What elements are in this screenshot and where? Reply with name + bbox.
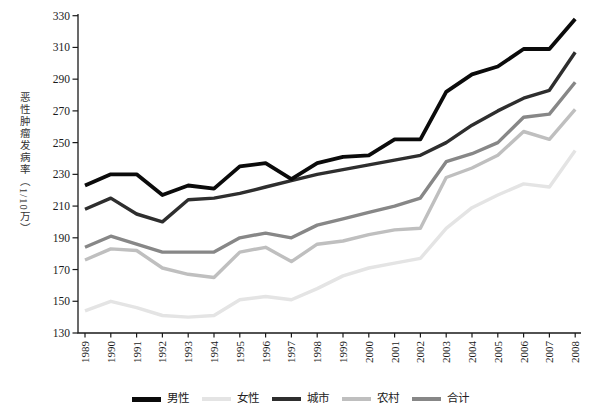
legend-swatch-total bbox=[412, 397, 441, 401]
legend-swatch-rural bbox=[342, 397, 371, 401]
x-tick-label: 1993 bbox=[182, 341, 194, 364]
legend-item-rural: 农村 bbox=[342, 393, 399, 405]
y-tick-label: 150 bbox=[53, 295, 71, 307]
x-tick-label: 1989 bbox=[79, 341, 91, 364]
y-tick-label: 130 bbox=[53, 327, 71, 339]
y-tick-label: 170 bbox=[53, 264, 71, 276]
y-tick-label: 270 bbox=[53, 105, 71, 117]
x-tick-label: 1994 bbox=[208, 341, 220, 364]
series-line-male bbox=[85, 19, 575, 195]
legend-label-urban: 城市 bbox=[307, 393, 329, 405]
legend-label-rural: 农村 bbox=[377, 393, 399, 405]
legend-swatch-urban bbox=[272, 397, 301, 401]
legend-label-male: 男性 bbox=[167, 393, 189, 405]
x-tick-label: 1997 bbox=[285, 341, 297, 364]
x-tick-label: 1991 bbox=[131, 341, 143, 363]
y-tick-label: 330 bbox=[53, 10, 71, 22]
legend-label-total: 合计 bbox=[447, 393, 469, 405]
legend-label-female: 女性 bbox=[237, 393, 259, 405]
y-tick-label: 230 bbox=[53, 168, 71, 180]
x-tick-label: 2002 bbox=[414, 341, 426, 363]
x-tick-label: 2003 bbox=[440, 341, 452, 364]
x-tick-label: 1995 bbox=[234, 341, 246, 364]
x-tick-label: 2001 bbox=[389, 341, 401, 363]
y-axis-title: 恶性肿瘤发病率（1/10万） bbox=[16, 92, 31, 235]
y-tick-label: 210 bbox=[53, 200, 71, 212]
x-tick-label: 2000 bbox=[363, 341, 375, 364]
cancer-incidence-trend-chart: 恶性肿瘤发病率（1/10万） 1301501701902102302502702… bbox=[0, 0, 600, 420]
chart-legend: 男性女性城市农村合计 bbox=[0, 388, 600, 410]
y-tick-label: 190 bbox=[53, 232, 71, 244]
x-tick-label: 1996 bbox=[260, 341, 272, 364]
legend-item-total: 合计 bbox=[412, 393, 469, 405]
x-tick-label: 2008 bbox=[569, 341, 581, 364]
x-tick-label: 2007 bbox=[543, 341, 555, 364]
y-tick-label: 290 bbox=[53, 73, 71, 85]
x-tick-label: 1992 bbox=[156, 341, 168, 363]
x-tick-label: 1990 bbox=[105, 341, 117, 364]
y-tick-label: 310 bbox=[53, 41, 71, 53]
legend-item-female: 女性 bbox=[202, 393, 259, 405]
x-tick-label: 2004 bbox=[466, 341, 478, 364]
x-tick-label: 2005 bbox=[492, 341, 504, 364]
x-tick-label: 1998 bbox=[311, 341, 323, 364]
x-tick-label: 1999 bbox=[337, 341, 349, 364]
legend-swatch-male bbox=[132, 397, 161, 402]
x-tick-label: 2006 bbox=[518, 341, 530, 364]
y-tick-label: 250 bbox=[53, 137, 71, 149]
legend-swatch-female bbox=[202, 397, 231, 401]
series-line-female bbox=[85, 151, 575, 318]
legend-item-urban: 城市 bbox=[272, 393, 329, 405]
plot-area: 1301501701902102302502702903103301989199… bbox=[0, 0, 600, 388]
legend-item-male: 男性 bbox=[132, 393, 189, 405]
